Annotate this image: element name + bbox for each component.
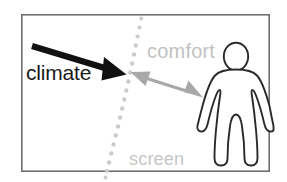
diagram-canvas: climate comfort screen — [0, 0, 287, 182]
label-screen: screen — [129, 150, 184, 168]
label-climate: climate — [26, 62, 91, 83]
person-head — [224, 43, 248, 71]
label-comfort: comfort — [147, 41, 215, 61]
